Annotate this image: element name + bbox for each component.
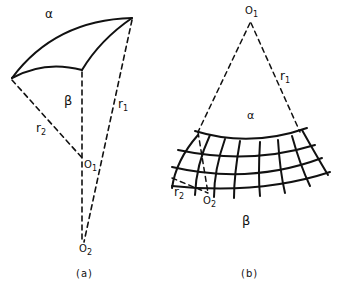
fig-a-r2-label: r2 <box>36 122 46 137</box>
fig-a-beta-label: β <box>64 94 72 107</box>
fig-a-r1-label: r1 <box>118 98 128 113</box>
o1-symbol: O <box>245 5 253 16</box>
o1-subscript: 1 <box>253 10 258 19</box>
grid-radial-2 <box>195 135 210 195</box>
fig-b-r1-label: r1 <box>280 70 290 85</box>
o1-symbol: O <box>84 159 92 170</box>
figure-a-drawing <box>12 18 132 242</box>
fig-a-o1-label: O1 <box>84 160 97 173</box>
patch-bottom-edge <box>12 66 82 78</box>
o2-subscript: 2 <box>87 248 92 257</box>
grid-radial-8 <box>302 130 328 175</box>
fig-a-o2-label: O2 <box>79 244 92 257</box>
o2-subscript: 2 <box>211 200 216 209</box>
grid-radial-7 <box>292 136 310 186</box>
left-radius-line <box>198 23 250 132</box>
fig-a-caption: (a) <box>76 269 93 279</box>
patch-right-edge <box>82 18 132 70</box>
fig-a-alpha-label: α <box>45 8 53 20</box>
o2-symbol: O <box>203 195 211 206</box>
fig-b-o2-label: O2 <box>203 196 216 209</box>
fig-b-caption: (b) <box>241 269 258 279</box>
grid-curve-1 <box>195 128 307 139</box>
grid-radial-5 <box>259 142 260 196</box>
r2-line <box>12 80 84 160</box>
o1-subscript: 1 <box>92 164 97 173</box>
r1-line <box>84 20 132 242</box>
r1-subscript: 1 <box>123 104 128 113</box>
diagram-canvas <box>0 0 344 286</box>
r1-subscript: 1 <box>285 76 290 85</box>
fig-b-o1-label: O1 <box>245 6 258 19</box>
fig-b-alpha-label: α <box>247 110 254 121</box>
fig-b-beta-label: β <box>242 214 250 227</box>
r1-line <box>251 23 300 132</box>
r2-subscript: 2 <box>179 192 184 201</box>
grid-radial-4 <box>234 141 240 198</box>
o2-symbol: O <box>79 243 87 254</box>
patch-top-edge <box>12 18 132 78</box>
r2-subscript: 2 <box>41 128 46 137</box>
fig-b-r2-label: r2 <box>174 186 184 201</box>
